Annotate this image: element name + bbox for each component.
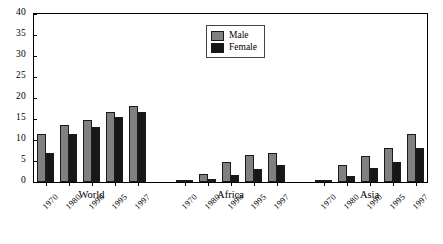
x-tick-mark [324,182,325,186]
y-tick-mark [33,77,37,78]
bar-africa-1995-male [245,155,254,182]
y-tick-label: 10 [16,134,26,144]
bar-asia-1970-male [315,180,324,182]
y-tick-label: 30 [16,50,26,60]
y-tick-label: 20 [16,92,26,102]
bar-asia-1995-male [384,148,393,182]
x-axis-year-label: 1970 [180,192,199,211]
bar-asia-1980-female [347,176,356,182]
y-tick-label: 5 [21,155,26,165]
bar-africa-1970-female [185,180,194,182]
y-tick-label: 40 [16,8,26,18]
y-tick-mark [33,119,37,120]
bar-africa-1995-female [254,169,263,182]
x-tick-mark [254,182,255,186]
bar-asia-1980-male [338,165,347,182]
x-axis-year-label: 1997 [411,192,430,211]
x-tick-mark [92,182,93,186]
bar-world-1970-male [37,134,46,182]
bar-world-1970-female [46,153,55,182]
group-label-world: World [79,190,105,201]
bar-africa-1980-male [199,174,208,182]
bar-africa-1970-male [176,180,185,182]
bar-africa-1990-female [231,175,240,182]
bar-asia-1990-male [361,156,370,182]
bar-chart: 0510152025303540 Male Female 19701980199… [0,0,443,244]
bar-asia-1997-female [416,148,425,182]
x-axis-year-label: 1997 [272,192,291,211]
legend-label-male: Male [229,31,249,41]
x-tick-mark [393,182,394,186]
x-tick-mark [208,182,209,186]
bar-asia-1990-female [370,168,379,182]
bar-africa-1980-female [208,179,217,182]
x-axis-year-label: 1970 [41,192,60,211]
bar-africa-1997-male [268,153,277,182]
x-tick-mark [46,182,47,186]
bar-world-1997-male [129,106,138,182]
bar-world-1997-female [138,112,147,182]
legend-label-female: Female [229,43,257,53]
bar-africa-1990-male [222,162,231,182]
bar-asia-1970-female [324,180,333,182]
bar-world-1995-female [115,117,124,182]
y-tick-mark [33,161,37,162]
x-axis-year-label: 1995 [249,192,268,211]
x-tick-mark [115,182,116,186]
x-tick-mark [138,182,139,186]
x-tick-mark [370,182,371,186]
x-tick-mark [416,182,417,186]
x-tick-mark [347,182,348,186]
bar-group-world [34,14,149,182]
legend-item-female: Female [211,42,257,53]
bar-world-1990-female [92,127,101,182]
y-tick-mark [33,35,37,36]
bar-world-1995-male [106,112,115,182]
group-label-africa: Africa [217,190,244,201]
bar-world-1980-male [60,125,69,182]
y-tick-label: 15 [16,113,26,123]
group-label-asia: Asia [360,190,379,201]
y-axis: 0510152025303540 [0,13,33,183]
bar-world-1980-female [69,134,78,182]
bar-asia-1997-male [407,134,416,182]
y-tick-label: 0 [21,176,26,186]
y-tick-mark [33,98,37,99]
legend-swatch-male-icon [211,31,224,41]
x-tick-mark [185,182,186,186]
legend-item-male: Male [211,30,257,41]
x-tick-mark [277,182,278,186]
x-axis-year-label: 1980 [342,192,361,211]
bar-africa-1997-female [277,165,286,182]
y-tick-mark [33,140,37,141]
x-axis-year-label: 1995 [388,192,407,211]
bar-group-asia [312,14,427,182]
y-tick-mark [33,14,37,15]
y-tick-label: 35 [16,29,26,39]
chart-legend: Male Female [206,25,265,58]
x-tick-mark [231,182,232,186]
x-axis-year-label: 1970 [319,192,338,211]
y-tick-label: 25 [16,71,26,81]
x-tick-mark [69,182,70,186]
x-axis-year-label: 1997 [133,192,152,211]
y-tick-mark [33,56,37,57]
legend-swatch-female-icon [211,43,224,53]
bar-asia-1995-female [393,162,402,182]
bar-world-1990-male [83,120,92,182]
x-axis-year-label: 1995 [110,192,129,211]
